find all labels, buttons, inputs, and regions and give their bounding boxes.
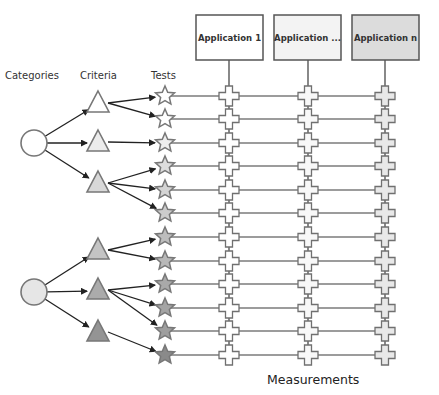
- test-9-star-icon: [155, 274, 174, 292]
- criterion-test-arrow: [108, 97, 155, 103]
- category-criterion-arrow: [45, 110, 89, 137]
- measurement-cross-icon: [375, 251, 395, 271]
- criterion-2-triangle-icon: [87, 130, 109, 151]
- criterion-test-arrow: [108, 239, 155, 250]
- test-11-star-icon: [155, 321, 174, 339]
- criterion-test-arrow: [108, 103, 155, 116]
- measurement-diagram: Categories Criteria Tests Measurements A…: [0, 0, 439, 395]
- category-criterion-arrow: [45, 299, 89, 327]
- measurements-label: Measurements: [267, 372, 359, 387]
- criterion-5-triangle-icon: [87, 278, 109, 299]
- category-criterion-arrow: [45, 150, 89, 178]
- measurement-cross-icon: [219, 203, 239, 223]
- measurement-cross-icon: [375, 133, 395, 153]
- measurement-cross-icon: [375, 109, 395, 129]
- criterion-test-arrow: [108, 142, 155, 143]
- measurement-cross-icon: [298, 133, 318, 153]
- category-1-circle-icon: [21, 130, 47, 156]
- measurement-markers: [219, 86, 395, 365]
- category-criterion-arrow: [47, 291, 87, 292]
- measurement-cross-icon: [375, 274, 395, 294]
- category-criterion-arrow: [45, 257, 89, 285]
- measurement-cross-icon: [219, 109, 239, 129]
- test-10-star-icon: [155, 298, 174, 316]
- criterion-6-triangle-icon: [87, 320, 109, 341]
- criterion-test-arrow: [108, 169, 155, 183]
- measurement-cross-icon: [375, 156, 395, 176]
- application-column-2: Application ...: [274, 15, 341, 60]
- measurement-cross-icon: [219, 86, 239, 106]
- measurement-cross-icon: [219, 274, 239, 294]
- application-column-1: Application 1: [196, 15, 263, 60]
- criterion-1-triangle-icon: [87, 91, 109, 112]
- measurement-cross-icon: [375, 298, 395, 318]
- measurement-cross-icon: [375, 345, 395, 365]
- categories-label: Categories: [5, 70, 59, 81]
- criterion-test-arrow: [108, 183, 155, 189]
- measurement-cross-icon: [298, 345, 318, 365]
- application-label: Application 1: [198, 33, 261, 43]
- measurement-cross-icon: [375, 86, 395, 106]
- measurement-cross-icon: [298, 298, 318, 318]
- measurement-cross-icon: [219, 298, 239, 318]
- measurement-cross-icon: [298, 109, 318, 129]
- tests-label: Tests: [150, 70, 176, 81]
- measurement-cross-icon: [375, 180, 395, 200]
- test-5-star-icon: [155, 180, 174, 198]
- criterion-test-arrow: [108, 183, 156, 208]
- measurement-cross-icon: [375, 227, 395, 247]
- application-label: Application ...: [274, 33, 341, 43]
- measurement-cross-icon: [298, 227, 318, 247]
- measurement-cross-icon: [375, 203, 395, 223]
- measurement-cross-icon: [298, 180, 318, 200]
- measurement-cross-icon: [219, 251, 239, 271]
- criterion-4-triangle-icon: [87, 238, 109, 259]
- test-12-star-icon: [155, 345, 174, 363]
- test-1-star-icon: [155, 86, 174, 104]
- criterion-test-arrow: [108, 290, 155, 305]
- application-label: Application n: [354, 33, 417, 43]
- criteria-label: Criteria: [80, 70, 117, 81]
- measurement-cross-icon: [219, 133, 239, 153]
- measurement-cross-icon: [219, 321, 239, 341]
- test-4-star-icon: [155, 156, 174, 174]
- test-2-star-icon: [155, 109, 174, 127]
- measurement-cross-icon: [298, 251, 318, 271]
- application-column-3: Application n: [352, 15, 419, 60]
- measurement-cross-icon: [298, 156, 318, 176]
- test-6-star-icon: [155, 203, 174, 221]
- measurement-cross-icon: [219, 345, 239, 365]
- criterion-test-arrow: [108, 250, 155, 259]
- measurement-cross-icon: [219, 156, 239, 176]
- criterion-3-triangle-icon: [87, 171, 109, 192]
- measurement-cross-icon: [219, 180, 239, 200]
- measurement-cross-icon: [298, 86, 318, 106]
- measurement-cross-icon: [298, 274, 318, 294]
- measurement-cross-icon: [298, 203, 318, 223]
- measurement-cross-icon: [219, 227, 239, 247]
- measurement-cross-icon: [375, 321, 395, 341]
- test-3-star-icon: [155, 133, 174, 151]
- application-headers: Application 1Application ...Application …: [196, 15, 419, 60]
- test-8-star-icon: [155, 251, 174, 269]
- criterion-test-arrow: [108, 285, 155, 290]
- test-7-star-icon: [155, 227, 174, 245]
- category-2-circle-icon: [21, 279, 47, 305]
- criterion-test-arrow: [108, 290, 157, 325]
- criterion-test-arrow: [108, 332, 156, 351]
- measurement-cross-icon: [298, 321, 318, 341]
